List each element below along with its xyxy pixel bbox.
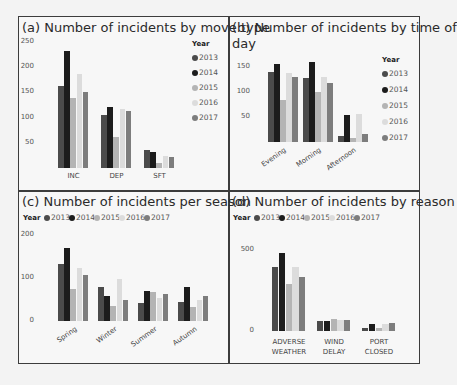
bar-2017 [123, 300, 129, 322]
y-tick-label: 150 [12, 87, 34, 95]
legend-item-2015[interactable]: 2015 [94, 213, 120, 222]
legend-dot-icon [304, 215, 310, 221]
bar-2015 [350, 138, 356, 142]
legend-title: Year [382, 56, 399, 64]
bar-2017 [362, 134, 368, 142]
y-tick-label: 100 [12, 113, 34, 121]
bar-2017 [83, 275, 89, 321]
legend-label: 2013 [199, 53, 218, 62]
legend-item-2016[interactable]: 2016 [119, 213, 145, 222]
legend-dot-icon [94, 215, 100, 221]
legend-item-2014[interactable]: 2014 [279, 213, 305, 222]
legend-dot-icon [382, 103, 388, 109]
y-tick-label: 500 [232, 245, 254, 253]
legend-label: 2016 [336, 213, 355, 222]
legend-item-2015[interactable]: 2015 [304, 213, 330, 222]
legend-label: 2017 [389, 133, 408, 142]
bar-2014 [64, 248, 70, 321]
bar-2013 [138, 303, 144, 321]
legend-item-2014[interactable]: 2014 [382, 85, 408, 94]
bar-2017 [203, 296, 209, 321]
legend-item-2013[interactable]: 2013 [44, 213, 70, 222]
legend-item-2016[interactable]: 2016 [382, 117, 408, 126]
legend-label: 2013 [261, 213, 280, 222]
bar-2015 [110, 306, 116, 321]
bar-2013 [178, 302, 184, 321]
y-tick-label: 0 [232, 326, 254, 334]
legend-label: 2014 [76, 213, 95, 222]
legend-item-2017[interactable]: 2017 [144, 213, 170, 222]
legend-dot-icon [69, 215, 75, 221]
bar-2017 [169, 157, 175, 168]
legend-dot-icon [192, 100, 198, 106]
bar-2013 [303, 78, 309, 143]
bar-2013 [101, 115, 107, 168]
bar-2016 [197, 300, 203, 322]
legend-dot-icon [192, 85, 198, 91]
legend-dot-icon [44, 215, 50, 221]
bar-2017 [327, 83, 333, 142]
legend-label: 2017 [199, 113, 218, 122]
legend-dot-icon [382, 119, 388, 125]
bar-2013 [98, 287, 104, 321]
bar-2017 [163, 294, 169, 321]
panel-d-title: (d) Number of incidents by reason [232, 194, 455, 210]
legend-dot-icon [119, 215, 125, 221]
legend-label: 2014 [286, 213, 305, 222]
bar-2014 [150, 152, 156, 168]
bar-2016 [77, 74, 83, 168]
legend-item-2017[interactable]: 2017 [382, 133, 408, 142]
bar-2017 [299, 277, 305, 331]
legend-dot-icon [279, 215, 285, 221]
bar-2014 [369, 324, 375, 331]
y-tick-label: 250 [12, 37, 34, 45]
horizontal-divider [18, 190, 420, 192]
legend-dot-icon [192, 115, 198, 121]
legend-label: 2015 [389, 101, 408, 110]
legend-title: Year [233, 214, 250, 222]
legend-label: 2017 [361, 213, 380, 222]
bar-2015 [150, 292, 156, 321]
bar-2016 [286, 73, 292, 142]
legend-item-2017[interactable]: 2017 [192, 113, 218, 122]
legend-item-2015[interactable]: 2015 [192, 83, 218, 92]
panel-b-title-line2: day [232, 36, 256, 52]
legend-item-2013[interactable]: 2013 [192, 53, 218, 62]
legend-dot-icon [382, 71, 388, 77]
bar-2013 [272, 267, 278, 331]
legend-label: 2016 [126, 213, 145, 222]
bar-2017 [83, 92, 89, 168]
bar-2017 [344, 320, 350, 331]
legend-item-2015[interactable]: 2015 [382, 101, 408, 110]
bar-2013 [58, 86, 64, 168]
bar-2014 [104, 296, 110, 321]
bar-2015 [190, 307, 196, 321]
bar-2014 [184, 287, 190, 321]
legend-dot-icon [354, 215, 360, 221]
bar-2014 [64, 51, 70, 168]
legend-item-2013[interactable]: 2013 [382, 69, 408, 78]
legend-item-2013[interactable]: 2013 [254, 213, 280, 222]
legend-item-2016[interactable]: 2016 [329, 213, 355, 222]
bar-2016 [382, 324, 388, 331]
legend-label: 2015 [311, 213, 330, 222]
category-label: SFT [140, 172, 180, 180]
y-tick-label: 50 [12, 138, 34, 146]
bar-2014 [279, 253, 285, 331]
bar-2015 [286, 284, 292, 331]
category-label: DELAY [309, 347, 359, 357]
legend-label: 2015 [101, 213, 120, 222]
bar-2013 [268, 72, 274, 142]
legend-item-2017[interactable]: 2017 [354, 213, 380, 222]
bar-2016 [157, 298, 163, 321]
bar-2013 [317, 321, 323, 331]
legend-label: 2015 [199, 83, 218, 92]
legend-item-2014[interactable]: 2014 [69, 213, 95, 222]
legend-item-2016[interactable]: 2016 [192, 98, 218, 107]
bar-2013 [144, 150, 150, 168]
y-tick-label: 100 [12, 273, 34, 281]
bar-2016 [117, 279, 123, 321]
legend-dot-icon [382, 87, 388, 93]
legend-item-2014[interactable]: 2014 [192, 68, 218, 77]
legend-dot-icon [382, 135, 388, 141]
